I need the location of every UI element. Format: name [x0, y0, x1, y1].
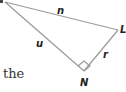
vertex-label-L: L — [120, 24, 126, 35]
side-label-n: n — [57, 5, 64, 16]
side-label-r: r — [103, 49, 109, 60]
partial-vertex-label — [0, 0, 3, 3]
caption-fragment: the — [3, 66, 24, 81]
vertex-label-N: N — [80, 77, 89, 88]
side-label-u: u — [36, 38, 43, 49]
